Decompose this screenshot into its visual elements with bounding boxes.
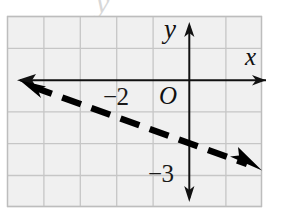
x-intercept-label: −2 bbox=[103, 84, 129, 109]
coordinate-plane-figure: y bbox=[0, 0, 282, 218]
y-intercept-label: −3 bbox=[148, 161, 174, 186]
y-axis-label: y bbox=[164, 16, 176, 43]
graph-canvas bbox=[0, 0, 282, 218]
x-axis-label: x bbox=[245, 44, 256, 69]
origin-label: O bbox=[159, 83, 177, 108]
